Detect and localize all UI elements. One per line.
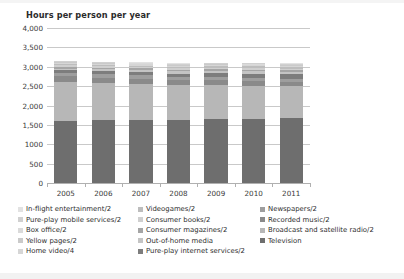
legend-swatch-icon xyxy=(260,238,265,243)
bar-2009 xyxy=(204,63,227,183)
x-axis-tick xyxy=(197,183,198,187)
legend-label: Consumer magazines/2 xyxy=(146,226,227,234)
legend-swatch-icon xyxy=(260,217,265,222)
y-axis-tick-label: 4,000 xyxy=(22,24,43,33)
legend-item: Yellow pages/2 xyxy=(18,237,138,245)
legend-label: Recorded music/2 xyxy=(268,216,330,224)
legend-label: Out-of-home media xyxy=(146,237,213,245)
x-axis-tick xyxy=(235,183,236,187)
legend-label: Home video/4 xyxy=(26,247,74,255)
legend-item: Consumer books/2 xyxy=(138,216,260,224)
x-axis-tick xyxy=(310,183,311,187)
chart-figure: Hours per person per year 050010001,5002… xyxy=(0,0,404,279)
bar-2011 xyxy=(280,63,303,183)
legend-swatch-icon xyxy=(18,228,23,233)
bar-segment xyxy=(280,86,303,118)
legend-swatch-icon xyxy=(18,238,23,243)
bar-2005 xyxy=(54,61,77,183)
legend-item: Pure-play internet services/2 xyxy=(138,247,260,255)
y-axis-tick-label: 1000 xyxy=(25,140,43,149)
x-axis-tick xyxy=(47,183,48,187)
legend-item: Pure-play mobile services/2 xyxy=(18,216,138,224)
legend-label: Yellow pages/2 xyxy=(26,237,77,245)
legend-swatch-icon xyxy=(260,228,265,233)
legend-item: In-flight entertainment/2 xyxy=(18,205,138,213)
bar-segment xyxy=(129,120,152,183)
bar-segment xyxy=(92,120,115,183)
legend-swatch-icon xyxy=(138,228,143,233)
x-axis-label-2010: 2010 xyxy=(244,189,262,198)
y-axis-tick-label: 500 xyxy=(29,159,43,168)
legend-label: Television xyxy=(268,237,302,245)
legend-swatch-icon xyxy=(138,207,143,212)
legend-label: Broadcast and satellite radio/2 xyxy=(268,226,374,234)
bars-layer xyxy=(47,28,310,183)
legend-column: Newspapers/2Recorded music/2Broadcast an… xyxy=(260,205,390,258)
y-axis-tick-label: 0 xyxy=(38,179,43,188)
legend-item: Out-of-home media xyxy=(138,237,260,245)
chart-legend: In-flight entertainment/2Pure-play mobil… xyxy=(18,205,396,258)
bar-segment xyxy=(129,84,152,120)
x-axis-label-2011: 2011 xyxy=(282,189,300,198)
legend-column: In-flight entertainment/2Pure-play mobil… xyxy=(18,205,138,258)
legend-item: Box office/2 xyxy=(18,226,138,234)
x-axis-tick xyxy=(272,183,273,187)
x-axis-label-2009: 2009 xyxy=(207,189,225,198)
y-axis-tick-label: 3,500 xyxy=(22,43,43,52)
legend-column: Videogames/2Consumer books/2Consumer mag… xyxy=(138,205,260,258)
bar-2010 xyxy=(242,63,265,183)
x-axis-tick xyxy=(85,183,86,187)
legend-swatch-icon xyxy=(18,207,23,212)
bar-segment xyxy=(280,118,303,183)
bar-segment xyxy=(92,83,115,120)
bar-segment xyxy=(242,119,265,183)
bar-2006 xyxy=(92,62,115,183)
legend-label: Newspapers/2 xyxy=(268,205,317,213)
y-axis-tick-label: 2,500 xyxy=(22,82,43,91)
bar-segment xyxy=(204,119,227,183)
y-axis-tick-label: 1,500 xyxy=(22,120,43,129)
x-axis-label-2005: 2005 xyxy=(57,189,75,198)
legend-label: Pure-play mobile services/2 xyxy=(26,216,121,224)
legend-label: In-flight entertainment/2 xyxy=(26,205,111,213)
bar-segment xyxy=(242,86,265,119)
legend-swatch-icon xyxy=(18,249,23,254)
x-axis-label-2006: 2006 xyxy=(94,189,112,198)
legend-label: Consumer books/2 xyxy=(146,216,210,224)
legend-swatch-icon xyxy=(18,217,23,222)
legend-item: Videogames/2 xyxy=(138,205,260,213)
legend-item: Home video/4 xyxy=(18,247,138,255)
legend-swatch-icon xyxy=(138,238,143,243)
legend-label: Pure-play internet services/2 xyxy=(146,247,245,255)
legend-item: Consumer magazines/2 xyxy=(138,226,260,234)
bar-segment xyxy=(167,120,190,183)
bar-segment xyxy=(54,121,77,183)
x-axis-tick xyxy=(122,183,123,187)
chart-title: Hours per person per year xyxy=(26,10,150,20)
legend-label: Videogames/2 xyxy=(146,205,195,213)
legend-item: Television xyxy=(260,237,390,245)
bar-segment xyxy=(167,85,190,120)
legend-swatch-icon xyxy=(138,217,143,222)
x-axis-label-2007: 2007 xyxy=(132,189,150,198)
bar-2008 xyxy=(167,63,190,183)
bar-segment xyxy=(54,82,77,121)
legend-item: Newspapers/2 xyxy=(260,205,390,213)
legend-item: Broadcast and satellite radio/2 xyxy=(260,226,390,234)
x-axis-line xyxy=(47,183,310,184)
plot-area: 050010001,5002,0002,5003,0003,5004,000 xyxy=(47,28,310,183)
legend-swatch-icon xyxy=(138,249,143,254)
x-axis-tick xyxy=(160,183,161,187)
legend-item: Recorded music/2 xyxy=(260,216,390,224)
bar-segment xyxy=(204,85,227,119)
y-axis-tick-label: 3,000 xyxy=(22,62,43,71)
x-axis-label-2008: 2008 xyxy=(169,189,187,198)
bar-2007 xyxy=(129,62,152,183)
y-axis-tick-label: 2,000 xyxy=(22,101,43,110)
legend-label: Box office/2 xyxy=(26,226,67,234)
legend-swatch-icon xyxy=(260,207,265,212)
